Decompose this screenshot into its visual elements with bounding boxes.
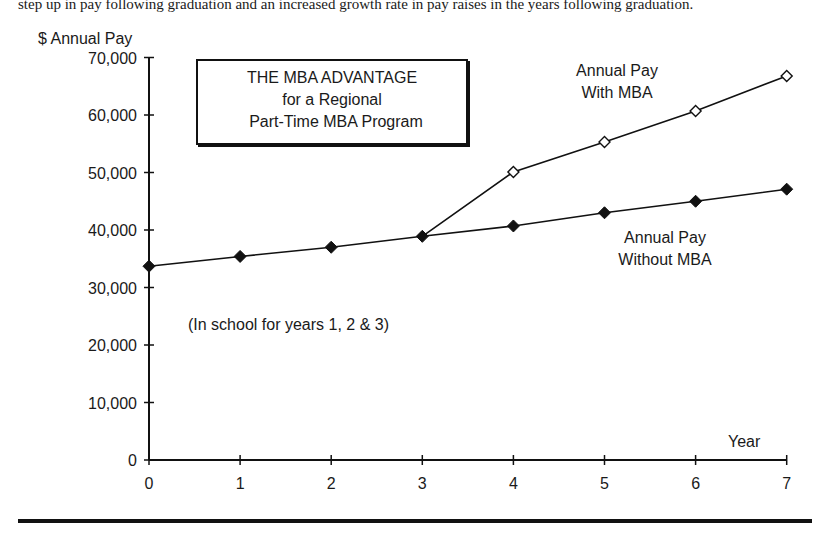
with-mba-label: Annual Pay With MBA xyxy=(552,60,682,104)
filled-diamond-marker xyxy=(781,183,793,195)
without-mba-label-line-2: Without MBA xyxy=(600,249,730,271)
x-tick-label: 5 xyxy=(600,475,609,492)
y-tick-label: 40,000 xyxy=(88,222,137,239)
bottom-rule xyxy=(18,519,812,523)
without-mba-label: Annual Pay Without MBA xyxy=(600,227,730,271)
chart-title-line-1: THE MBA ADVANTAGE xyxy=(198,67,466,89)
y-tick-label: 10,000 xyxy=(88,395,137,412)
filled-diamond-marker xyxy=(690,195,702,207)
filled-diamond-marker xyxy=(507,220,519,232)
with-mba-label-line-1: Annual Pay xyxy=(552,60,682,82)
filled-diamond-marker xyxy=(416,230,428,242)
x-tick-label: 1 xyxy=(236,475,245,492)
filled-diamond-marker xyxy=(325,241,337,253)
x-axis-title: Year xyxy=(728,431,760,453)
x-tick-label: 6 xyxy=(691,475,700,492)
school-note: (In school for years 1, 2 & 3) xyxy=(188,314,389,336)
open-diamond-marker xyxy=(690,105,701,116)
open-diamond-marker xyxy=(508,166,519,177)
x-tick-label: 2 xyxy=(327,475,336,492)
open-diamond-marker xyxy=(599,137,610,148)
filled-diamond-marker xyxy=(599,207,611,219)
y-tick-label: 70,000 xyxy=(88,50,137,67)
x-tick-label: 0 xyxy=(145,475,154,492)
chart-title-box: THE MBA ADVANTAGE for a Regional Part-Ti… xyxy=(196,59,468,145)
chart-title-line-3: Part-Time MBA Program xyxy=(198,111,466,133)
with-mba-label-line-2: With MBA xyxy=(552,82,682,104)
filled-diamond-marker xyxy=(143,260,155,272)
open-diamond-marker xyxy=(781,70,792,81)
y-tick-label: 60,000 xyxy=(88,107,137,124)
filled-diamond-marker xyxy=(234,250,246,262)
y-tick-label: 0 xyxy=(128,452,137,469)
y-tick-label: 50,000 xyxy=(88,165,137,182)
x-tick-label: 4 xyxy=(509,475,518,492)
x-tick-label: 7 xyxy=(782,475,791,492)
chart-title-line-2: for a Regional xyxy=(198,89,466,111)
x-tick-label: 3 xyxy=(418,475,427,492)
without-mba-label-line-1: Annual Pay xyxy=(600,227,730,249)
y-tick-label: 20,000 xyxy=(88,337,137,354)
y-tick-label: 30,000 xyxy=(88,280,137,297)
